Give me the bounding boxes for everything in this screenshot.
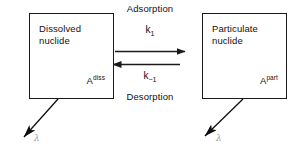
decay-constant-left-label: λ <box>34 133 40 143</box>
decay-arrow-left <box>24 99 58 137</box>
diagram-canvas: Dissolved nuclide Adiss Particulate nucl… <box>0 0 299 156</box>
decay-constant-right-label: λ <box>216 133 222 143</box>
decay-arrow-right <box>205 99 243 136</box>
arrows-overlay <box>0 0 299 156</box>
